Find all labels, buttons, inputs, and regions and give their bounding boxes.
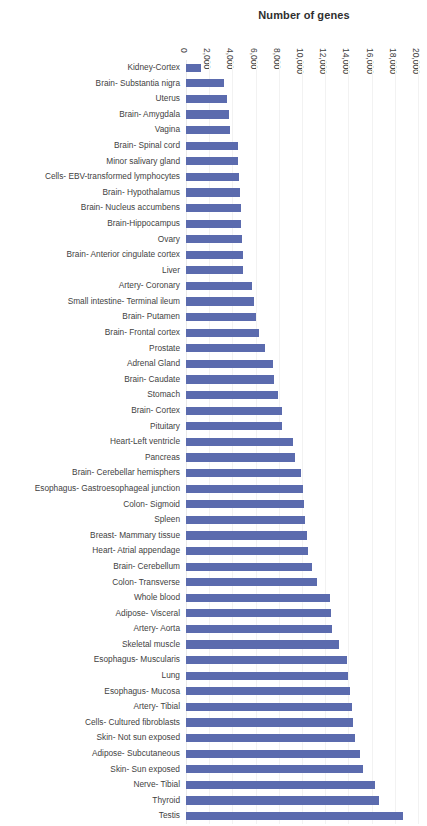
category-label: Brain- Cortex (0, 403, 180, 419)
bar-row: Skeletal muscle (0, 637, 427, 653)
bar-row: Cells- EBV-transformed lymphocytes (0, 169, 427, 185)
bar (186, 703, 352, 711)
bar-row: Artery- Coronary (0, 278, 427, 294)
bar (186, 344, 265, 352)
bar-row: Testis (0, 808, 427, 824)
category-label: Liver (0, 263, 180, 279)
bar-row: Brain- Substantia nigra (0, 76, 427, 92)
bar-row: Heart-Left ventricle (0, 434, 427, 450)
bar-row: Brain- Amygdala (0, 107, 427, 123)
bar-row: Adipose- Subcutaneous (0, 746, 427, 762)
x-axis-tick-labels: 02,0004,0006,0008,00010,00012,00014,0001… (0, 24, 427, 58)
bar (186, 500, 304, 508)
bar (186, 547, 308, 555)
bar (186, 391, 278, 399)
bar (186, 656, 347, 664)
bar (186, 422, 282, 430)
bar-row: Esophagus- Muscularis (0, 652, 427, 668)
category-label: Brain- Caudate (0, 372, 180, 388)
category-label: Cells- Cultured fibroblasts (0, 715, 180, 731)
category-label: Adipose- Visceral (0, 606, 180, 622)
bar (186, 625, 332, 633)
bar (186, 329, 259, 337)
category-label: Colon- Sigmoid (0, 497, 180, 513)
bar (186, 173, 239, 181)
category-label: Kidney-Cortex (0, 60, 180, 76)
bar (186, 204, 241, 212)
bar (186, 485, 303, 493)
bar (186, 282, 252, 290)
bar-row: Prostate (0, 341, 427, 357)
category-label: Skeletal muscle (0, 637, 180, 653)
category-label: Cells- EBV-transformed lymphocytes (0, 169, 180, 185)
bar (186, 609, 331, 617)
bar-row: Liver (0, 263, 427, 279)
category-label: Brain- Anterior cingulate cortex (0, 247, 180, 263)
bar (186, 812, 403, 820)
category-label: Brain- Substantia nigra (0, 76, 180, 92)
category-label: Heart- Atrial appendage (0, 543, 180, 559)
bar-row: Stomach (0, 387, 427, 403)
bar (186, 750, 360, 758)
bar-row: Brain- Frontal cortex (0, 325, 427, 341)
bar-row: Colon- Transverse (0, 575, 427, 591)
bar-row: Pancreas (0, 450, 427, 466)
category-label: Testis (0, 808, 180, 824)
bar-row: Heart- Atrial appendage (0, 543, 427, 559)
bar (186, 438, 293, 446)
bar-row: Kidney-Cortex (0, 60, 427, 76)
category-label: Minor salivary gland (0, 154, 180, 170)
category-label: Prostate (0, 341, 180, 357)
bar-row: Brain- Spinal cord (0, 138, 427, 154)
category-label: Colon- Transverse (0, 575, 180, 591)
category-label: Pancreas (0, 450, 180, 466)
bar (186, 687, 350, 695)
bar (186, 578, 317, 586)
gene-count-bar-chart: Number of genes 02,0004,0006,0008,00010,… (0, 0, 427, 826)
bar-row: Uterus (0, 91, 427, 107)
category-label: Brain- Amygdala (0, 107, 180, 123)
bar (186, 142, 238, 150)
bar-rows: Kidney-CortexBrain- Substantia nigraUter… (0, 60, 427, 824)
category-label: Lung (0, 668, 180, 684)
bar-row: Brain- Cerebellum (0, 559, 427, 575)
category-label: Pituitary (0, 419, 180, 435)
bar (186, 516, 305, 524)
bar (186, 297, 254, 305)
bar (186, 251, 243, 259)
category-label: Artery- Aorta (0, 621, 180, 637)
bar-row: Brain- Cortex (0, 403, 427, 419)
category-label: Breast- Mammary tissue (0, 528, 180, 544)
category-label: Brain- Frontal cortex (0, 325, 180, 341)
bar (186, 220, 241, 228)
bar-row: Small intestine- Terminal ileum (0, 294, 427, 310)
bar (186, 266, 243, 274)
bar-row: Brain- Anterior cingulate cortex (0, 247, 427, 263)
bar-row: Brain- Hypothalamus (0, 185, 427, 201)
bar-row: Brain- Putamen (0, 309, 427, 325)
category-label: Artery- Coronary (0, 278, 180, 294)
bar-row: Thyroid (0, 793, 427, 809)
bar (186, 79, 224, 87)
bar-row: Vagina (0, 122, 427, 138)
bar-row: Minor salivary gland (0, 154, 427, 170)
category-label: Brain- Cerebellum (0, 559, 180, 575)
bar (186, 718, 353, 726)
category-label: Artery- Tibial (0, 699, 180, 715)
bar (186, 594, 330, 602)
category-label: Esophagus- Mucosa (0, 684, 180, 700)
bar (186, 110, 229, 118)
category-label: Stomach (0, 387, 180, 403)
category-label: Ovary (0, 232, 180, 248)
bar (186, 64, 201, 72)
category-label: Nerve- Tibial (0, 777, 180, 793)
bar (186, 313, 256, 321)
bar-row: Whole blood (0, 590, 427, 606)
bar-row: Adipose- Visceral (0, 606, 427, 622)
bar (186, 781, 375, 789)
bar (186, 796, 379, 804)
bar-row: Skin- Not sun exposed (0, 730, 427, 746)
category-label: Skin- Sun exposed (0, 762, 180, 778)
category-label: Esophagus- Gastroesophageal junction (0, 481, 180, 497)
category-label: Heart-Left ventricle (0, 434, 180, 450)
